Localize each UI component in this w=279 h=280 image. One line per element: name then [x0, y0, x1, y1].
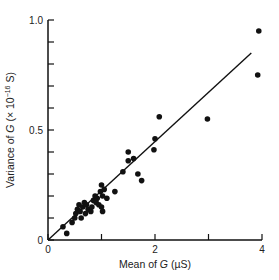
plot-area [48, 28, 262, 240]
scatter-chart: 00.51.0024 Mean of G (µS) Variance of G … [0, 0, 279, 280]
data-point [104, 195, 110, 201]
data-point [60, 224, 66, 230]
data-point [131, 156, 137, 162]
y-axis-label: Variance of G (× 10−16 S) [4, 72, 16, 188]
data-point [135, 171, 141, 177]
data-point [120, 169, 126, 175]
data-point [151, 147, 157, 153]
data-point [256, 28, 262, 34]
data-point [78, 215, 84, 221]
data-point [89, 204, 95, 210]
y-tick-label: 0 [37, 235, 43, 246]
data-point [125, 158, 131, 164]
data-point [152, 136, 158, 142]
data-point [64, 231, 70, 237]
x-axis-label: Mean of G (µS) [119, 258, 191, 270]
axes: 00.51.0024 [29, 15, 265, 255]
y-tick-label: 1.0 [29, 15, 43, 26]
data-point [94, 195, 100, 201]
data-point [139, 178, 145, 184]
data-point [100, 209, 106, 215]
x-tick-label: 2 [152, 244, 158, 255]
data-point [101, 187, 107, 193]
data-point [205, 116, 211, 122]
data-point [125, 149, 131, 155]
x-tick-label: 4 [259, 244, 265, 255]
data-point [112, 189, 118, 195]
y-tick-label: 0.5 [29, 125, 43, 136]
x-tick-label: 0 [45, 244, 51, 255]
data-point [156, 114, 162, 120]
data-point [255, 72, 261, 78]
